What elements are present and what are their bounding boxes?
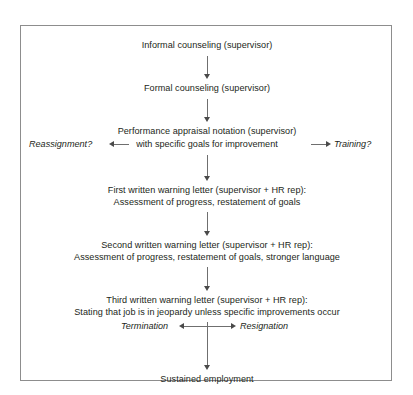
node-informal-counseling: Informal counseling (supervisor): [21, 40, 393, 52]
branch-label-goals: with specific goals for improvement: [127, 138, 287, 150]
node-performance-appraisal-notation: Performance appraisal notation (supervis…: [21, 126, 393, 138]
node-line: Stating that job is in jeopardy unless s…: [21, 307, 393, 319]
node-line: Third written warning letter (supervisor…: [21, 295, 393, 307]
arrow-down-icon: [204, 74, 210, 79]
node-line: Formal counseling (supervisor): [21, 83, 393, 95]
outcome-left-line: [184, 326, 208, 327]
node-line: Sustained employment: [21, 374, 393, 386]
outcome-right-line: [207, 326, 231, 327]
arrow-down-icon: [204, 176, 210, 181]
node-formal-counseling: Formal counseling (supervisor): [21, 83, 393, 95]
node-line: Assessment of progress, restatement of g…: [21, 252, 393, 264]
node-line: Informal counseling (supervisor): [21, 40, 393, 52]
connector-formal-to-appraisal-line: [207, 99, 208, 118]
branch-left-line: [114, 144, 129, 145]
outcome-label-termination: Termination: [121, 320, 168, 332]
connector-informal-to-formal-line: [207, 56, 208, 75]
arrow-right-icon: [231, 323, 236, 329]
connector-second-to-third-warning-line: [207, 267, 208, 287]
outcome-label-resignation: Resignation: [240, 320, 288, 332]
branch-label-reassignment: Reassignment?: [29, 138, 92, 150]
flowchart-canvas: Informal counseling (supervisor) Formal …: [0, 0, 413, 395]
node-second-written-warning: Second written warning letter (superviso…: [21, 240, 393, 263]
node-line: First written warning letter (supervisor…: [21, 185, 393, 197]
node-third-written-warning: Third written warning letter (supervisor…: [21, 295, 393, 318]
connector-first-to-second-warning-line: [207, 212, 208, 232]
node-sustained-employment: Sustained employment: [21, 374, 393, 386]
node-line: Second written warning letter (superviso…: [21, 240, 393, 252]
arrow-down-icon: [204, 286, 210, 291]
arrow-right-icon: [326, 141, 331, 147]
arrow-down-icon: [204, 117, 210, 122]
arrow-down-icon: [204, 231, 210, 236]
branch-right-line: [311, 144, 326, 145]
arrow-down-icon: [204, 365, 210, 370]
node-line: Assessment of progress, restatement of g…: [21, 197, 393, 209]
branch-label-training: Training?: [334, 138, 371, 150]
node-line: Performance appraisal notation (supervis…: [21, 126, 393, 138]
figure-frame: Informal counseling (supervisor) Formal …: [20, 25, 392, 381]
node-first-written-warning: First written warning letter (supervisor…: [21, 185, 393, 208]
connector-appraisal-to-first-warning-line: [207, 155, 208, 177]
branch-row: Reassignment? with specific goals for im…: [21, 138, 393, 150]
